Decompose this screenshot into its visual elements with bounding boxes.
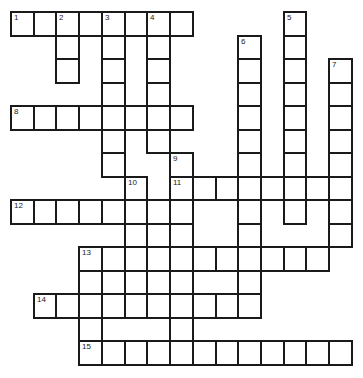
crossword-cell[interactable]: 2 (55, 11, 80, 37)
crossword-cell[interactable] (169, 340, 194, 366)
crossword-cell[interactable]: 9 (169, 152, 194, 178)
crossword-cell[interactable] (237, 58, 262, 84)
crossword-cell[interactable]: 10 (124, 176, 148, 201)
crossword-cell[interactable] (328, 82, 353, 107)
crossword-cell[interactable] (124, 293, 148, 319)
crossword-cell[interactable] (124, 105, 148, 131)
crossword-cell[interactable] (237, 152, 262, 178)
crossword-cell[interactable] (283, 199, 307, 225)
crossword-cell[interactable] (215, 246, 239, 272)
crossword-cell[interactable] (328, 105, 353, 131)
crossword-cell[interactable]: 7 (328, 58, 353, 84)
crossword-cell[interactable]: 15 (78, 340, 103, 366)
crossword-cell[interactable] (146, 199, 171, 225)
crossword-cell[interactable] (146, 82, 171, 107)
crossword-cell[interactable] (124, 246, 148, 272)
crossword-cell[interactable] (78, 270, 103, 295)
crossword-cell[interactable] (124, 11, 148, 37)
crossword-cell[interactable] (237, 223, 262, 248)
crossword-cell[interactable] (328, 176, 353, 201)
crossword-cell[interactable] (146, 340, 171, 366)
crossword-cell[interactable] (305, 340, 330, 366)
crossword-cell[interactable] (55, 105, 80, 131)
crossword-cell[interactable] (283, 340, 307, 366)
crossword-cell[interactable] (101, 340, 126, 366)
crossword-cell[interactable] (237, 82, 262, 107)
crossword-cell[interactable] (283, 35, 307, 60)
crossword-cell[interactable] (169, 199, 194, 225)
crossword-cell[interactable] (146, 293, 171, 319)
crossword-cell[interactable] (237, 105, 262, 131)
crossword-cell[interactable] (237, 293, 262, 319)
crossword-cell[interactable] (169, 105, 194, 131)
crossword-cell[interactable] (237, 340, 262, 366)
crossword-cell[interactable] (55, 199, 80, 225)
crossword-cell[interactable] (101, 246, 126, 272)
crossword-cell[interactable] (169, 223, 194, 248)
crossword-cell[interactable] (78, 293, 103, 319)
crossword-cell[interactable]: 4 (146, 11, 171, 37)
crossword-cell[interactable]: 14 (33, 293, 57, 319)
crossword-cell[interactable] (78, 317, 103, 342)
crossword-cell[interactable] (78, 11, 103, 37)
crossword-cell[interactable] (101, 35, 126, 60)
crossword-cell[interactable] (124, 340, 148, 366)
crossword-cell[interactable]: 8 (10, 105, 35, 131)
crossword-cell[interactable] (215, 176, 239, 201)
crossword-cell[interactable] (192, 340, 217, 366)
crossword-cell[interactable] (169, 270, 194, 295)
crossword-cell[interactable] (124, 223, 148, 248)
crossword-cell[interactable] (101, 152, 126, 178)
crossword-cell[interactable] (101, 105, 126, 131)
crossword-cell[interactable] (146, 223, 171, 248)
crossword-cell[interactable]: 6 (237, 35, 262, 60)
crossword-cell[interactable] (146, 105, 171, 131)
crossword-cell[interactable] (328, 223, 353, 248)
crossword-cell[interactable] (192, 293, 217, 319)
crossword-cell[interactable] (101, 58, 126, 84)
crossword-cell[interactable] (33, 199, 57, 225)
crossword-cell[interactable]: 3 (101, 11, 126, 37)
crossword-cell[interactable] (283, 129, 307, 154)
crossword-cell[interactable] (237, 129, 262, 154)
crossword-cell[interactable] (146, 35, 171, 60)
crossword-cell[interactable] (124, 270, 148, 295)
crossword-cell[interactable] (55, 293, 80, 319)
crossword-cell[interactable]: 11 (169, 176, 194, 201)
crossword-cell[interactable] (192, 246, 217, 272)
crossword-cell[interactable] (237, 270, 262, 295)
crossword-cell[interactable] (33, 105, 57, 131)
crossword-cell[interactable] (146, 246, 171, 272)
crossword-cell[interactable] (124, 199, 148, 225)
crossword-cell[interactable] (78, 199, 103, 225)
crossword-cell[interactable] (215, 340, 239, 366)
crossword-cell[interactable] (328, 129, 353, 154)
crossword-cell[interactable] (260, 340, 285, 366)
crossword-cell[interactable] (237, 176, 262, 201)
crossword-cell[interactable] (283, 176, 307, 201)
crossword-cell[interactable]: 1 (10, 11, 35, 37)
crossword-cell[interactable] (305, 246, 330, 272)
crossword-cell[interactable] (78, 105, 103, 131)
crossword-cell[interactable] (169, 11, 194, 37)
crossword-cell[interactable] (283, 246, 307, 272)
crossword-cell[interactable] (101, 82, 126, 107)
crossword-cell[interactable]: 5 (283, 11, 307, 37)
crossword-cell[interactable] (169, 293, 194, 319)
crossword-cell[interactable] (283, 105, 307, 131)
crossword-cell[interactable] (55, 58, 80, 84)
crossword-cell[interactable]: 13 (78, 246, 103, 272)
crossword-cell[interactable] (237, 199, 262, 225)
crossword-cell[interactable] (328, 340, 353, 366)
crossword-cell[interactable] (101, 293, 126, 319)
crossword-cell[interactable] (146, 58, 171, 84)
crossword-cell[interactable] (33, 11, 57, 37)
crossword-cell[interactable] (192, 176, 217, 201)
crossword-cell[interactable] (260, 176, 285, 201)
crossword-cell[interactable] (215, 293, 239, 319)
crossword-cell[interactable] (101, 270, 126, 295)
crossword-cell[interactable] (237, 246, 262, 272)
crossword-cell[interactable] (283, 58, 307, 84)
crossword-cell[interactable] (283, 152, 307, 178)
crossword-cell[interactable] (328, 199, 353, 225)
